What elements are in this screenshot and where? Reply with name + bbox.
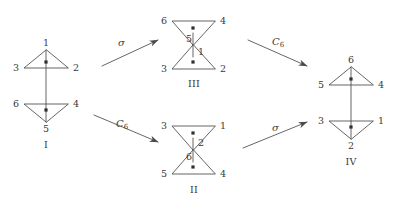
arrow-label-c6-top-text: C	[272, 36, 280, 47]
structure-IV-lower-center-dot	[349, 125, 352, 128]
structure-III-vertex-5: 5	[184, 34, 194, 44]
arrow-label-sigma-top-text: σ	[118, 37, 125, 48]
structure-IV-vertex-2: 2	[346, 141, 356, 151]
structure-I-vertex-3: 3	[11, 63, 21, 73]
arrow-label-sigma-top: σ	[118, 38, 125, 48]
diagram-vector-layer	[0, 0, 399, 204]
structure-IV-vertex-5: 5	[316, 80, 326, 90]
structure-II-vertex-5: 5	[159, 169, 169, 179]
structure-IV-vertex-1: 1	[376, 116, 386, 126]
structure-I-vertex-6: 6	[11, 99, 21, 109]
arrow-label-c6-bottom: C6	[116, 119, 128, 129]
arrow-I-to-III	[102, 40, 158, 66]
structure-III-upper-center-dot	[191, 26, 194, 29]
structure-I-vertex-4: 4	[71, 99, 81, 109]
structure-I-lower-center-dot	[44, 108, 47, 111]
structure-II-upper-center-dot	[191, 131, 194, 134]
structure-II-upper-triangle	[172, 126, 215, 150]
structure-II-vertex-2: 2	[196, 138, 206, 148]
arrow-label-sigma-bottom: σ	[272, 123, 279, 133]
arrow-label-sigma-bottom-text: σ	[272, 122, 279, 133]
structure-II-lower-center-dot	[191, 165, 194, 168]
structure-IV-vertex-6: 6	[346, 55, 356, 65]
structure-II-vertex-1: 1	[218, 121, 228, 131]
structure-III-caption: III	[185, 79, 203, 89]
structure-I-vertex-2: 2	[71, 63, 81, 73]
structure-II-vertex-6: 6	[184, 152, 194, 162]
structure-I-upper-center-dot	[44, 60, 47, 63]
structure-III-vertex-6: 6	[159, 16, 169, 26]
arrow-label-c6-bottom-text: C	[116, 118, 124, 129]
structure-I-vertex-1: 1	[41, 38, 51, 48]
structure-III-lower-center-dot	[191, 60, 194, 63]
structure-III-vertex-2: 2	[218, 64, 228, 74]
structure-III-lower-triangle	[172, 45, 215, 69]
arrow-label-c6-top-sub: 6	[280, 41, 284, 49]
structure-III-vertex-3: 3	[159, 64, 169, 74]
arrow-label-c6-top: C6	[272, 37, 284, 47]
structure-II-vertex-3: 3	[159, 121, 169, 131]
structure-IV-vertex-4: 4	[376, 80, 386, 90]
structure-I-vertex-5: 5	[41, 124, 51, 134]
structure-I-caption: I	[41, 140, 51, 150]
structure-IV-upper-center-dot	[349, 77, 352, 80]
structure-III-vertex-1: 1	[196, 47, 206, 57]
structure-IV-vertex-3: 3	[316, 116, 326, 126]
structure-II-caption: II	[187, 185, 201, 195]
structure-IV-caption: IV	[343, 157, 359, 167]
structure-III-vertex-4: 4	[218, 16, 228, 26]
figure-canvas: 1 2 3 4 5 6 I 6 4 5 1 3 2 III 3 1 2 6 5 …	[0, 0, 399, 204]
structure-II-vertex-4: 4	[218, 169, 228, 179]
arrow-label-c6-bottom-sub: 6	[124, 123, 128, 131]
